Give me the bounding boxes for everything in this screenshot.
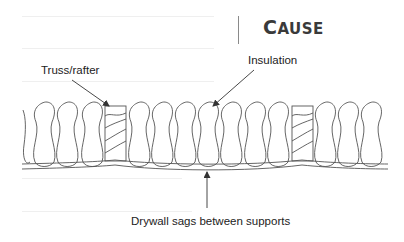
truss-left bbox=[105, 106, 126, 161]
ceiling-diagram bbox=[0, 0, 404, 242]
truss-arrow bbox=[72, 80, 109, 106]
insulation-batt bbox=[23, 110, 30, 163]
drywall-bottom bbox=[22, 165, 388, 170]
insulation-batts bbox=[34, 102, 382, 167]
insulation-arrow bbox=[213, 70, 254, 106]
truss-right bbox=[292, 106, 313, 161]
